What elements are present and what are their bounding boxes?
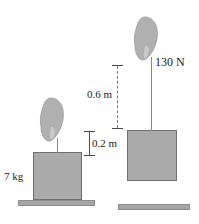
ground-right [118,204,190,210]
dimension-line-06 [117,66,118,128]
force-label: 130 N [155,56,185,68]
block-right [127,130,177,181]
ground-left [18,200,95,206]
block-left [33,152,82,200]
hand-gripping-rope-icon [37,97,67,143]
mass-label: 7 kg [4,170,23,182]
dimension-label-06: 0.6 m [87,88,112,100]
dimension-line-02 [89,132,90,155]
dimension-tick-bottom-06 [112,128,123,129]
dimension-label-02: 0.2 m [92,137,117,149]
physics-diagram: 7 kg 130 N 0.6 m 0.2 m [0,0,199,224]
rope-right [151,57,152,131]
dimension-tick-bottom-02 [84,155,95,156]
